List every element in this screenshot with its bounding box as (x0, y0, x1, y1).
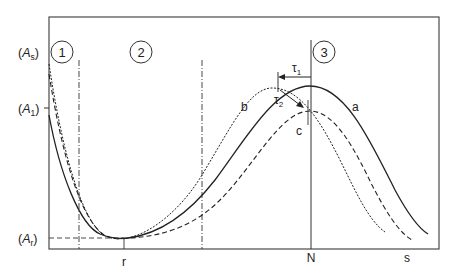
tau1-label: τ1 (292, 61, 302, 77)
curve-c (49, 74, 412, 240)
y-label-as: (As) (18, 46, 39, 62)
tau2-label: τ2 (274, 93, 284, 109)
curve-b (49, 64, 385, 239)
curve-label-b: b (241, 100, 248, 114)
svg-text:1: 1 (58, 45, 65, 60)
tau1-arrowhead-icon (278, 74, 285, 80)
svg-text:2: 2 (137, 45, 144, 60)
region-marker-3: 3 (313, 41, 335, 63)
x-label-s: s (404, 251, 410, 265)
y-label-a1: (A1) (18, 102, 39, 118)
curve-a (49, 86, 428, 239)
plot-frame (49, 17, 439, 249)
curve-label-c: c (296, 124, 302, 138)
svg-text:3: 3 (320, 45, 327, 60)
region-marker-2: 2 (130, 41, 152, 63)
response-diagram: 1 2 3 (As) (A1) (Ar) r N s a b c τ1 τ2 (0, 0, 457, 280)
curve-label-a: a (352, 100, 359, 114)
region-marker-1: 1 (51, 41, 73, 63)
x-label-r: r (122, 255, 126, 269)
x-label-n: N (307, 251, 316, 265)
y-label-ar: (Ar) (18, 232, 38, 248)
